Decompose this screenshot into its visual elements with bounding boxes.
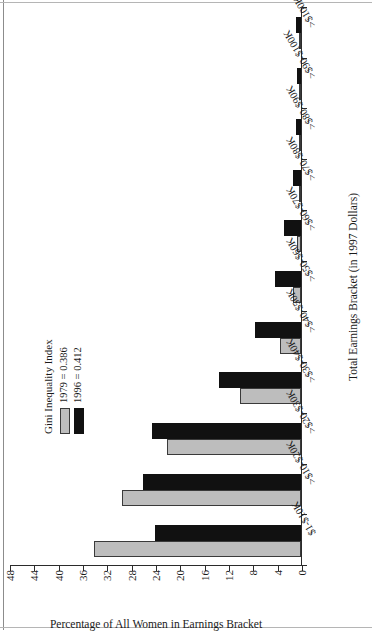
bar-1996-90-100K xyxy=(297,68,301,84)
bar-1979-1-10K xyxy=(94,541,301,557)
bar-1996-1-10K xyxy=(155,525,301,541)
value-axis-tick-label: 28 xyxy=(126,570,137,581)
legend-entry-1979: 1979 = 0.386 xyxy=(58,339,71,434)
value-axis-tick-label: 36 xyxy=(78,570,89,581)
bar-1996-50-60K xyxy=(275,271,301,287)
value-axis-tick-label: 8 xyxy=(248,570,259,576)
legend-label-1979: 1979 = 0.386 xyxy=(59,347,70,403)
value-axis-tick-label: 24 xyxy=(151,570,162,581)
bar-1996-30-40K xyxy=(219,372,301,388)
value-axis-tick-label: 32 xyxy=(102,570,113,581)
legend-swatch-1996 xyxy=(74,408,84,434)
bar-group xyxy=(9,119,301,151)
legend-swatch-1979 xyxy=(60,408,70,434)
plot-area: 04812162024283236404448 $1-$10K>$10-$20K… xyxy=(10,8,302,566)
bar-group xyxy=(9,170,301,202)
value-axis-tick-label: 20 xyxy=(175,570,186,581)
bar-group xyxy=(9,525,301,557)
category-axis-line xyxy=(301,8,302,566)
bar-1996-100K xyxy=(296,17,301,33)
bar-1996-70-80K xyxy=(293,170,301,186)
bar-1996-40-50K xyxy=(255,322,301,338)
value-axis-tick-label: 16 xyxy=(199,570,210,581)
value-axis-title: Percentage of All Women in Earnings Brac… xyxy=(10,616,302,632)
value-axis-tick-label: 40 xyxy=(53,570,64,581)
bar-1979-20-30K xyxy=(167,439,301,455)
bar-group xyxy=(9,68,301,100)
category-axis-title: Total Earnings Bracket (in 1997 Dollars) xyxy=(348,8,360,566)
bar-group xyxy=(9,474,301,506)
legend: Gini Inequality Index 1979 = 0.386 1996 … xyxy=(42,339,86,434)
bar-group xyxy=(9,271,301,303)
bar-1996-10-20K xyxy=(143,474,301,490)
value-axis-tick-label: 4 xyxy=(272,570,283,576)
bar-1979-10-20K xyxy=(122,490,301,506)
legend-entry-1996: 1996 = 0.412 xyxy=(72,339,85,434)
category-axis-tick xyxy=(302,565,307,566)
value-axis-tick-label: 44 xyxy=(29,570,40,581)
legend-label-1996: 1996 = 0.412 xyxy=(73,347,84,403)
value-axis-tick-label: 48 xyxy=(5,570,16,581)
bar-1996-60-70K xyxy=(284,220,301,236)
bar-group xyxy=(9,220,301,252)
legend-title: Gini Inequality Index xyxy=(42,339,55,434)
value-axis-tick-label: 12 xyxy=(224,570,235,581)
bar-1996-80-90K xyxy=(296,119,301,135)
value-axis-tick-label: 0 xyxy=(297,570,308,576)
bar-1996-20-30K xyxy=(152,423,301,439)
bar-group xyxy=(9,17,301,49)
